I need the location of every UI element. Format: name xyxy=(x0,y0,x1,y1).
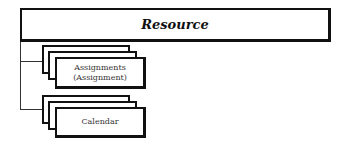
connector-assignments xyxy=(20,61,42,62)
resource-title: Resource xyxy=(141,17,209,32)
diagram-canvas: Resource Assignments (Assignment) Calend… xyxy=(0,0,344,146)
assignments-label-line2: (Assignment) xyxy=(73,73,127,83)
calendar-entity-box: Calendar xyxy=(55,107,146,138)
assignments-label-line1: Assignments xyxy=(73,63,127,73)
calendar-label: Calendar xyxy=(81,117,118,127)
assignments-entity-box: Assignments (Assignment) xyxy=(55,57,146,89)
resource-entity-box: Resource xyxy=(20,8,331,42)
connector-calendar xyxy=(20,109,42,110)
connector-vertical xyxy=(20,42,21,110)
assignments-label: Assignments (Assignment) xyxy=(73,63,127,83)
